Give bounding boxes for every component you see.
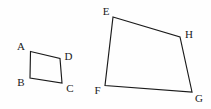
vertex-label-f: F — [94, 84, 100, 96]
vertex-label-d: D — [65, 50, 73, 62]
geometry-figure-canvas: A D C B E H G F — [0, 0, 211, 109]
vertex-label-h: H — [185, 28, 193, 40]
vertex-label-b: B — [17, 76, 24, 88]
geometry-svg: A D C B E H G F — [0, 0, 211, 109]
vertex-label-g: G — [195, 92, 203, 104]
vertex-label-c: C — [66, 82, 73, 94]
quadrilateral-efgh — [105, 17, 192, 92]
vertex-label-a: A — [17, 40, 25, 52]
quadrilateral-abcd — [30, 52, 62, 84]
vertex-label-e: E — [103, 5, 110, 17]
